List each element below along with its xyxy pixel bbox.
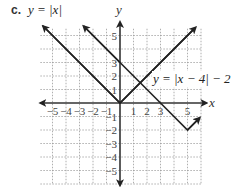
x-tick-label: −3 <box>74 105 86 117</box>
y-tick-label: 5 <box>112 30 118 42</box>
x-tick-label: 5 <box>185 105 191 117</box>
x-tick-label: −4 <box>60 105 72 117</box>
coordinate-graph: xy −5−4−3−2−112355321−1−2−3−4−5 <box>0 0 236 191</box>
x-tick-label: 1 <box>131 105 137 117</box>
y-tick-label: −4 <box>105 151 117 163</box>
y-axis-label: y <box>114 2 122 17</box>
x-tick-label: 3 <box>158 105 164 117</box>
y-tick-label: 2 <box>112 70 118 82</box>
y-tick-label: 1 <box>112 84 118 96</box>
x-axis-label: x <box>208 95 215 110</box>
x-tick-label: −5 <box>47 105 59 117</box>
y-tick-label: −2 <box>105 124 117 136</box>
arrowhead-end <box>120 27 196 103</box>
axes: xy <box>40 2 215 185</box>
arrowhead-end <box>188 118 200 130</box>
x-tick-label: −2 <box>87 105 99 117</box>
x-tick-label: 2 <box>144 105 150 117</box>
y-tick-label: −1 <box>105 111 117 123</box>
y-tick-label: −3 <box>105 138 117 150</box>
arrowhead-start <box>43 26 120 103</box>
y-tick-label: −5 <box>105 165 117 177</box>
equation-label-shifted-abs: y = |x − 4| − 2 <box>152 71 232 87</box>
